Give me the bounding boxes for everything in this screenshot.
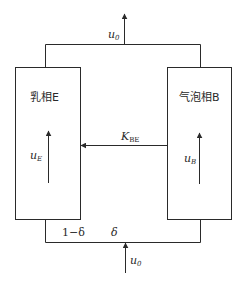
exchange-label: KBE [120,130,139,144]
two-phase-model-diagram: u0 乳相E uE 气泡相B uB KBE 1−δ δ u0 [0,0,242,283]
inlet-label: u0 [130,254,142,268]
emulsion-fraction-label: 1−δ [62,226,85,239]
top-manifold-line [46,45,201,68]
emulsion-phase-label: 乳相E [30,91,59,104]
bubble-phase-label: 气泡相B [179,90,220,104]
bubble-fraction-label: δ [111,226,118,239]
outlet-label: u0 [108,28,120,42]
